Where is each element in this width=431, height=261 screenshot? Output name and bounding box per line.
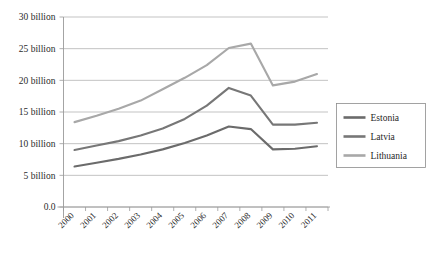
legend-label-estonia: Estonia bbox=[371, 113, 400, 123]
chart-canvas: 0.05 billion10 billion15 billion20 billi… bbox=[0, 0, 431, 261]
x-axis-tick-label: 2010 bbox=[277, 210, 297, 230]
x-axis-tick-label: 2001 bbox=[78, 210, 98, 230]
x-axis-tick-label: 2004 bbox=[144, 210, 164, 230]
y-axis-tick-label: 10 billion bbox=[19, 139, 56, 149]
series-line-latvia bbox=[75, 88, 317, 150]
x-axis-tick-label: 2006 bbox=[188, 210, 208, 230]
x-axis-tick-label: 2003 bbox=[122, 210, 142, 230]
line-chart: 0.05 billion10 billion15 billion20 billi… bbox=[0, 0, 431, 261]
legend-label-lithuania: Lithuania bbox=[371, 151, 408, 161]
x-axis-tick-label: 2005 bbox=[166, 210, 186, 230]
y-axis-tick-label: 0.0 bbox=[44, 202, 56, 212]
y-axis-tick-label: 25 billion bbox=[19, 44, 56, 54]
legend-label-latvia: Latvia bbox=[371, 132, 396, 142]
x-axis-tick-label: 2000 bbox=[56, 210, 76, 230]
x-axis-tick-label: 2002 bbox=[100, 210, 120, 230]
y-axis-tick-labels: 0.05 billion10 billion15 billion20 billi… bbox=[19, 12, 56, 212]
chart-legend: EstoniaLatviaLithuania bbox=[337, 104, 426, 168]
data-series-group bbox=[75, 44, 317, 167]
y-axis-tick-label: 20 billion bbox=[19, 76, 56, 86]
x-axis-tick-labels: 2000200120022003200420052006200720082009… bbox=[56, 210, 318, 230]
x-axis-tick-label: 2009 bbox=[255, 210, 275, 230]
y-axis bbox=[60, 17, 64, 218]
series-line-estonia bbox=[75, 127, 317, 167]
y-axis-tick-label: 30 billion bbox=[19, 12, 56, 22]
x-axis-tick-label: 2011 bbox=[299, 210, 319, 230]
series-line-lithuania bbox=[75, 44, 317, 123]
y-axis-tick-label: 5 billion bbox=[24, 171, 56, 181]
x-axis-tick-label: 2008 bbox=[232, 210, 252, 230]
x-axis-tick-label: 2007 bbox=[210, 210, 230, 230]
y-axis-tick-label: 15 billion bbox=[19, 107, 56, 117]
